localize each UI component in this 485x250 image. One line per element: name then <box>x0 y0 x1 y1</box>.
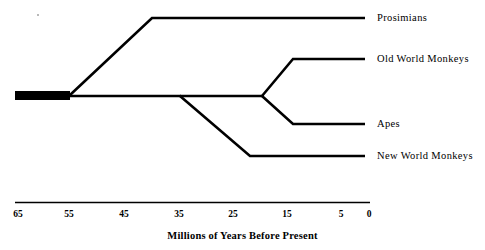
axis-tick-25: 25 <box>228 210 238 220</box>
taxon-label-new-world-monkeys: New World Monkeys <box>377 151 473 162</box>
axis-tick-65: 65 <box>13 210 23 220</box>
axis-tick-35: 35 <box>174 210 184 220</box>
prosimians-branch <box>70 18 365 95</box>
taxon-label-prosimians: Prosimians <box>377 13 427 24</box>
axis-tick-5: 5 <box>339 210 344 220</box>
axis-tick-0: 0 <box>367 210 372 220</box>
apes-branch <box>262 96 365 124</box>
axis-tick-45: 45 <box>119 210 129 220</box>
taxon-label-apes: Apes <box>377 119 400 130</box>
axis-tick-55: 55 <box>64 210 74 220</box>
old-world-monkeys-branch <box>262 59 365 96</box>
taxon-label-old-world-monkeys: Old World Monkeys <box>377 54 469 65</box>
axis-caption: Millions of Years Before Present <box>0 231 485 242</box>
axis-tick-15: 15 <box>282 210 292 220</box>
phylogenetic-tree-figure: Prosimians Old World Monkeys Apes New Wo… <box>0 0 485 250</box>
